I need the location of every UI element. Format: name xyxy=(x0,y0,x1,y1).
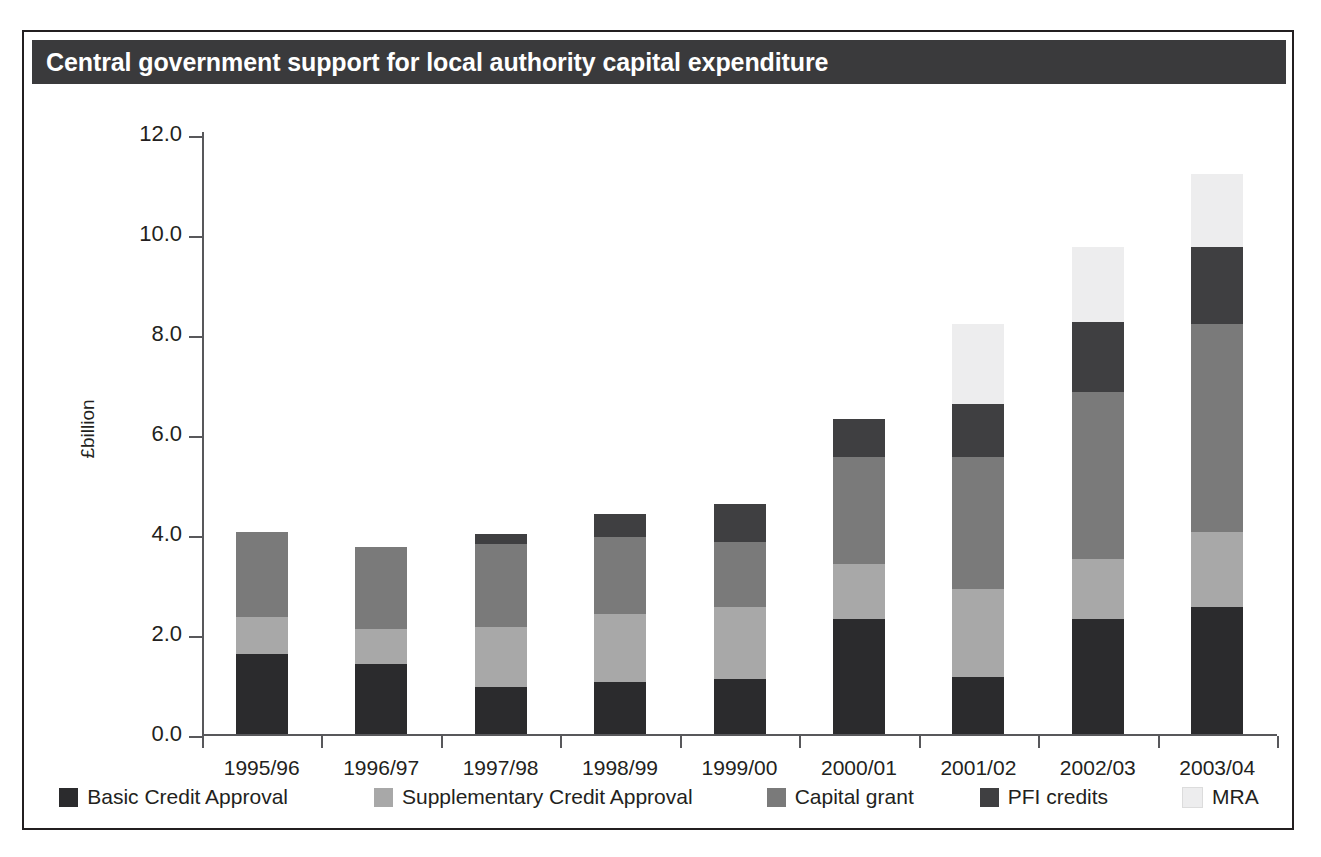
legend-swatch-icon xyxy=(767,788,786,807)
figure-frame: Central government support for local aut… xyxy=(22,30,1294,830)
x-axis-line xyxy=(202,734,1277,736)
bar-segment xyxy=(236,654,288,734)
y-tick-label: 10.0 xyxy=(104,221,182,247)
legend-label: PFI credits xyxy=(1008,785,1108,809)
legend-swatch-icon xyxy=(1182,787,1203,808)
bar-segment xyxy=(594,514,646,537)
y-axis-label: £billion xyxy=(77,369,99,489)
x-tick xyxy=(919,736,921,748)
y-tick-label: 8.0 xyxy=(104,321,182,347)
legend-swatch-icon xyxy=(59,788,78,807)
bar-segment xyxy=(1191,532,1243,607)
bar-segment xyxy=(1191,324,1243,532)
y-tick-label: 6.0 xyxy=(104,421,182,447)
bar-segment xyxy=(236,617,288,655)
y-tick xyxy=(189,136,202,138)
legend-item-supplementary-credit-approval[interactable]: Supplementary Credit Approval xyxy=(374,785,693,809)
bar-segment xyxy=(1072,247,1124,322)
y-tick xyxy=(189,436,202,438)
bar-segment xyxy=(594,614,646,682)
bar-segment xyxy=(475,534,527,544)
bar-segment xyxy=(952,457,1004,590)
y-tick xyxy=(189,536,202,538)
bar-segment xyxy=(1191,607,1243,735)
bar-2002-03 xyxy=(1072,247,1124,735)
y-axis-line xyxy=(202,132,204,740)
legend-item-capital-grant[interactable]: Capital grant xyxy=(767,785,914,809)
legend-label: Basic Credit Approval xyxy=(87,785,288,809)
y-tick xyxy=(189,636,202,638)
bar-1999-00 xyxy=(714,504,766,734)
x-tick xyxy=(441,736,443,748)
bar-segment xyxy=(1191,174,1243,247)
bar-segment xyxy=(1072,392,1124,560)
bar-segment xyxy=(475,687,527,735)
legend-swatch-icon xyxy=(980,788,999,807)
legend-label: Supplementary Credit Approval xyxy=(402,785,693,809)
x-tick xyxy=(560,736,562,748)
chart-axes: 12.010.08.06.04.02.00.0 1995/961996/9719… xyxy=(202,136,1277,736)
bar-segment xyxy=(475,627,527,687)
plot-area: £billion 12.010.08.06.04.02.00.0 1995/96… xyxy=(32,88,1286,824)
bar-segment xyxy=(236,532,288,617)
bar-segment xyxy=(833,457,885,565)
chart-page: Central government support for local aut… xyxy=(0,0,1321,857)
chart-title: Central government support for local aut… xyxy=(32,48,828,77)
legend-label: MRA xyxy=(1212,785,1259,809)
bar-segment xyxy=(833,419,885,457)
bar-segment xyxy=(952,404,1004,457)
bar-2003-04 xyxy=(1191,174,1243,734)
x-tick xyxy=(321,736,323,748)
x-tick xyxy=(799,736,801,748)
y-tick-label: 2.0 xyxy=(104,621,182,647)
y-tick-label: 0.0 xyxy=(104,721,182,747)
bar-segment xyxy=(1072,559,1124,619)
bar-segment xyxy=(355,547,407,630)
bar-segment xyxy=(714,504,766,542)
legend-item-basic-credit-approval[interactable]: Basic Credit Approval xyxy=(59,785,288,809)
bar-segment xyxy=(833,564,885,619)
bar-segment xyxy=(355,629,407,664)
x-tick xyxy=(1158,736,1160,748)
bar-2001-02 xyxy=(952,324,1004,734)
legend-swatch-icon xyxy=(374,788,393,807)
bar-segment xyxy=(714,607,766,680)
bar-segment xyxy=(1191,247,1243,325)
bar-1998-99 xyxy=(594,514,646,734)
bar-segment xyxy=(952,324,1004,404)
bar-2000-01 xyxy=(833,419,885,734)
y-tick-label: 4.0 xyxy=(104,521,182,547)
bar-segment xyxy=(952,589,1004,677)
bar-segment xyxy=(355,664,407,734)
legend-label: Capital grant xyxy=(795,785,914,809)
y-tick xyxy=(189,336,202,338)
y-tick xyxy=(189,736,202,738)
chart-legend: Basic Credit ApprovalSupplementary Credi… xyxy=(32,774,1286,820)
x-tick xyxy=(1277,736,1279,748)
bar-segment xyxy=(1072,619,1124,734)
y-tick xyxy=(189,236,202,238)
bar-segment xyxy=(833,619,885,734)
bar-1995-96 xyxy=(236,532,288,735)
bar-segment xyxy=(1072,322,1124,392)
x-tick xyxy=(680,736,682,748)
bar-segment xyxy=(714,679,766,734)
bar-1997-98 xyxy=(475,534,527,734)
bar-segment xyxy=(594,537,646,615)
legend-item-mra[interactable]: MRA xyxy=(1182,785,1259,809)
chart-title-bar: Central government support for local aut… xyxy=(32,40,1286,84)
bar-segment xyxy=(594,682,646,735)
bar-segment xyxy=(475,544,527,627)
legend-item-pfi-credits[interactable]: PFI credits xyxy=(980,785,1108,809)
bar-segment xyxy=(714,542,766,607)
x-tick xyxy=(202,736,204,748)
bar-1996-97 xyxy=(355,547,407,735)
y-tick-label: 12.0 xyxy=(104,121,182,147)
bar-segment xyxy=(952,677,1004,735)
x-tick xyxy=(1038,736,1040,748)
